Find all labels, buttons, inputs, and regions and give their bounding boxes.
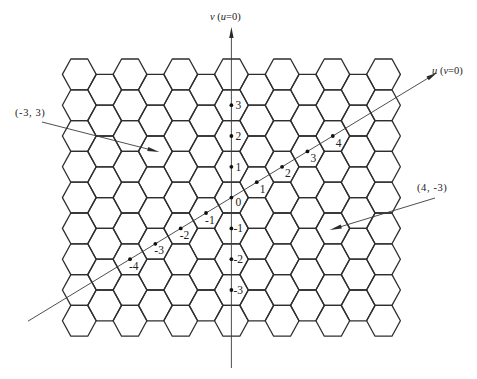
- hex-cell: [341, 136, 375, 167]
- hex-cell: [341, 259, 375, 290]
- hex-cell: [367, 244, 401, 275]
- hex-cell: [164, 59, 198, 90]
- hex-cell: [88, 228, 122, 259]
- u-axis-point-label: -4: [129, 260, 139, 272]
- v-axis-point-label: 3: [235, 99, 241, 111]
- hex-cell: [88, 167, 122, 198]
- hex-cell: [265, 121, 299, 152]
- hex-cell: [316, 275, 350, 306]
- axis-label-part: =0): [226, 11, 241, 23]
- v-axis-label: v (u=0): [210, 11, 241, 23]
- v-axis-arrow-icon: [229, 27, 233, 38]
- hex-cell: [240, 259, 274, 290]
- v-axis-point-label: -3: [233, 284, 243, 296]
- hex-cell: [265, 305, 299, 336]
- hex-cell: [291, 74, 325, 105]
- annotation-arrow-icon: [330, 225, 342, 230]
- hex-grid-diagram: 0321-1-2-34321-1-2-3-4 (-3, 3)(4, -3) v …: [0, 0, 477, 379]
- hex-cell: [62, 305, 96, 336]
- hex-cell: [62, 90, 96, 121]
- hex-cell: [62, 244, 96, 275]
- hex-cell: [240, 105, 274, 136]
- hex-cell: [291, 167, 325, 198]
- hex-cell: [164, 121, 198, 152]
- hex-cell: [138, 167, 172, 198]
- hex-cell: [164, 151, 198, 182]
- hex-cell: [265, 244, 299, 275]
- axis-label-part: =0): [448, 65, 463, 77]
- hex-cell: [189, 105, 223, 136]
- hex-cell: [265, 90, 299, 121]
- hex-cell: [189, 290, 223, 321]
- annotation-leader-line: [335, 198, 435, 229]
- hex-cell: [291, 105, 325, 136]
- hex-cell: [341, 290, 375, 321]
- hex-cell: [367, 121, 401, 152]
- v-axis-point-label: -1: [233, 222, 243, 234]
- u-axis-point-label: -3: [154, 244, 164, 256]
- annotation-label: (-3, 3): [15, 107, 45, 119]
- hex-cell: [164, 182, 198, 213]
- hex-cell: [316, 305, 350, 336]
- v-axis-point-dot: [230, 165, 234, 169]
- hex-cell: [62, 151, 96, 182]
- hex-cell: [189, 136, 223, 167]
- hex-cell: [62, 213, 96, 244]
- u-axis-point-dot: [306, 150, 310, 154]
- hex-cell: [113, 182, 147, 213]
- hex-cell: [265, 182, 299, 213]
- hex-cell: [240, 198, 274, 229]
- origin-point-dot: [230, 196, 234, 200]
- u-axis-point-label: 2: [285, 167, 291, 179]
- hex-cell: [88, 290, 122, 321]
- hex-cell: [113, 59, 147, 90]
- v-axis-point-label: -2: [233, 253, 243, 265]
- hex-cell: [164, 90, 198, 121]
- hex-cell: [291, 290, 325, 321]
- hex-cell: [367, 275, 401, 306]
- origin-point-label: 0: [235, 196, 241, 208]
- hex-cell: [138, 105, 172, 136]
- hex-cell: [341, 167, 375, 198]
- hex-cell: [113, 90, 147, 121]
- hex-cell: [316, 59, 350, 90]
- v-axis-point-label: 2: [235, 130, 241, 142]
- hex-cell: [138, 198, 172, 229]
- u-axis-label: u (v=0): [432, 65, 463, 77]
- hex-cell: [367, 305, 401, 336]
- hex-cell: [113, 305, 147, 336]
- hex-cell: [316, 151, 350, 182]
- hex-cell: [164, 275, 198, 306]
- hex-cell: [316, 213, 350, 244]
- hex-cell: [265, 213, 299, 244]
- hex-cell: [62, 121, 96, 152]
- hex-cell: [367, 182, 401, 213]
- hex-cell: [189, 259, 223, 290]
- u-axis-point-label: -2: [180, 229, 190, 241]
- u-axis-point-label: 1: [260, 183, 266, 195]
- annotation-label: (4, -3): [417, 182, 447, 194]
- hex-cell: [316, 90, 350, 121]
- hex-cell: [291, 198, 325, 229]
- hex-cell: [62, 59, 96, 90]
- hex-cell: [341, 74, 375, 105]
- hex-cell: [138, 290, 172, 321]
- hex-cell: [341, 198, 375, 229]
- hex-cell: [265, 275, 299, 306]
- annotation-arrow-icon: [147, 147, 159, 152]
- v-axis-point-label: 1: [235, 161, 241, 173]
- annotation-leader-line: [42, 122, 155, 151]
- hex-cell: [113, 121, 147, 152]
- v-axis-point-dot: [230, 134, 234, 138]
- hex-cell: [291, 228, 325, 259]
- hex-cell: [341, 228, 375, 259]
- hex-cell: [240, 290, 274, 321]
- hex-cell: [113, 151, 147, 182]
- hex-cell: [240, 136, 274, 167]
- hex-cell: [88, 105, 122, 136]
- u-axis-point-dot: [255, 180, 259, 184]
- hex-cell: [291, 259, 325, 290]
- hex-cell: [265, 59, 299, 90]
- hex-cell: [88, 74, 122, 105]
- hex-cell: [367, 151, 401, 182]
